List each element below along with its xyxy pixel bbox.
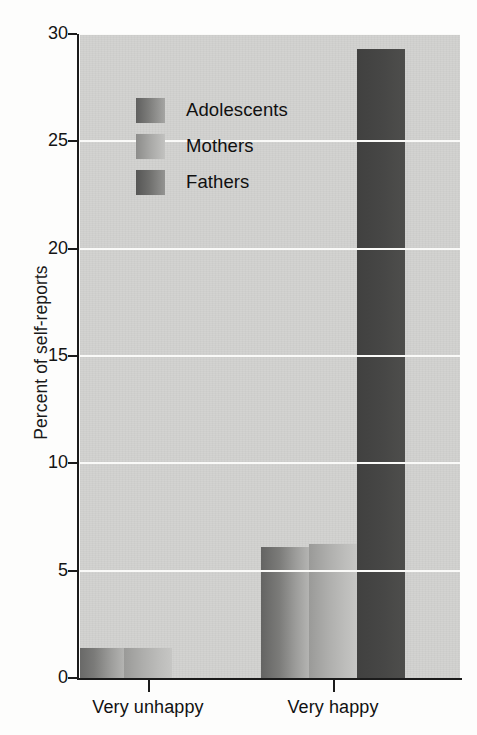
y-tick-label: 30 [26, 24, 68, 42]
x-tick-mark [333, 680, 335, 692]
y-tick-mark [68, 140, 77, 142]
gridline [80, 570, 460, 572]
x-tick-label: Very unhappy [92, 697, 203, 718]
y-tick-mark [68, 462, 77, 464]
legend-label: Fathers [186, 171, 249, 193]
legend: AdolescentsMothersFathers [136, 92, 288, 200]
y-tick-mark [68, 248, 77, 250]
y-tick-mark [68, 570, 77, 572]
bar-mothers-very-happy [309, 544, 357, 678]
y-tick-label: 0 [26, 668, 68, 686]
x-tick-label: Very happy [287, 697, 378, 718]
y-tick-label: 20 [26, 239, 68, 257]
gridline [80, 248, 460, 250]
y-tick-label: 5 [26, 561, 68, 579]
y-axis-ticks: 051015202530 [20, 0, 68, 735]
y-tick-mark [68, 677, 77, 679]
y-tick-mark [68, 355, 77, 357]
gridline [80, 34, 460, 35]
gridline [80, 355, 460, 357]
gridline [80, 462, 460, 464]
legend-swatch-icon [136, 98, 165, 123]
x-tick-mark [148, 680, 150, 692]
y-tick-label: 15 [26, 346, 68, 364]
bar-fathers-very-happy [357, 49, 405, 678]
y-tick-mark [68, 33, 77, 35]
y-tick-label: 10 [26, 453, 68, 471]
legend-item-mothers: Mothers [136, 128, 288, 164]
y-tick-label: 25 [26, 131, 68, 149]
bar-adolescents-very-unhappy [80, 648, 124, 678]
legend-swatch-icon [136, 170, 165, 195]
figure: Percent of self-reports 051015202530 Ado… [0, 0, 477, 735]
legend-item-adolescents: Adolescents [136, 92, 288, 128]
bar-fathers-very-unhappy [172, 605, 220, 678]
bar-mothers-very-unhappy [124, 648, 172, 678]
legend-item-fathers: Fathers [136, 164, 288, 200]
x-axis-line [77, 678, 462, 680]
legend-swatch-icon [136, 134, 165, 159]
bar-adolescents-very-happy [261, 547, 309, 678]
legend-label: Adolescents [186, 99, 288, 121]
legend-label: Mothers [186, 135, 254, 157]
